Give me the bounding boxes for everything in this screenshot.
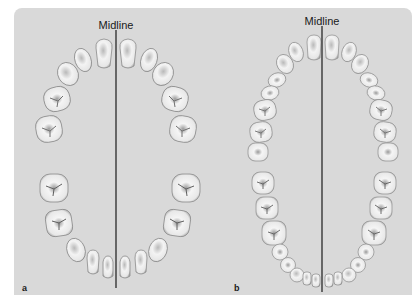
- tooth-molar-icon: [374, 172, 396, 194]
- tooth-molar-icon: [370, 197, 392, 219]
- tooth-molar-icon: [248, 143, 268, 161]
- lower-arch-a: [40, 174, 200, 278]
- tooth-incisor-icon: [334, 272, 342, 285]
- tooth-incisor-icon: [87, 250, 99, 274]
- panel-a: [34, 30, 200, 288]
- panel-b: [248, 26, 398, 292]
- midline-label-b: Midline: [305, 15, 340, 27]
- tooth-canine-icon: [342, 268, 356, 282]
- tooth-incisor-icon: [135, 250, 147, 274]
- tooth-incisor-icon: [325, 35, 339, 60]
- tooth-molar-icon: [373, 121, 398, 144]
- tooth-molar-icon: [362, 221, 386, 245]
- tooth-molar-icon: [368, 98, 394, 122]
- tooth-molar-icon: [172, 174, 200, 202]
- tooth-molar-icon: [40, 174, 68, 202]
- tooth-molar-icon: [252, 172, 274, 194]
- tooth-canine-icon: [63, 236, 88, 265]
- tooth-molar-icon: [252, 98, 278, 122]
- tooth-molar-icon: [41, 84, 72, 114]
- tooth-molar-icon: [378, 143, 398, 161]
- tooth-incisor-icon: [120, 39, 136, 68]
- tooth-incisor-icon: [120, 256, 130, 278]
- dental-arch-diagram: Midline Midline a b: [0, 0, 419, 301]
- tooth-incisor-icon: [307, 35, 321, 60]
- tooth-molar-icon: [34, 114, 64, 144]
- tooth-canine-icon: [290, 268, 304, 282]
- tooth-incisor-icon: [312, 274, 320, 287]
- lower-arch-b: [252, 172, 396, 287]
- tooth-incisor-icon: [325, 274, 333, 287]
- panel-label-a: a: [22, 283, 28, 293]
- tooth-molar-icon: [262, 221, 286, 245]
- tooth-incisor-icon: [103, 256, 113, 278]
- tooth-incisor-icon: [303, 272, 311, 285]
- tooth-incisor-icon: [96, 39, 112, 68]
- tooth-molar-icon: [159, 84, 190, 114]
- tooth-molar-icon: [168, 114, 198, 144]
- upper-arch-b: [248, 35, 398, 161]
- midline-label-a: Midline: [99, 19, 134, 31]
- tooth-canine-icon: [145, 236, 170, 265]
- tooth-molar-icon: [249, 121, 274, 144]
- tooth-molar-icon: [256, 197, 278, 219]
- panel-label-b: b: [234, 283, 240, 293]
